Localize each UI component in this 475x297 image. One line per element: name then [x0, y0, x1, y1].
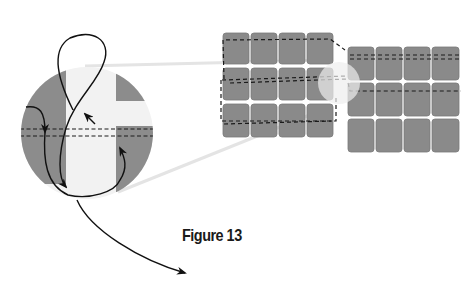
- figure-13-diagram: [0, 0, 475, 297]
- detail-circle: [20, 66, 156, 200]
- right-quilt-panel: [348, 47, 461, 152]
- figure-caption: Figure 13: [182, 226, 242, 246]
- magnifier-highlight: [318, 62, 360, 104]
